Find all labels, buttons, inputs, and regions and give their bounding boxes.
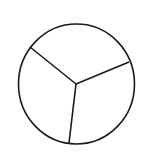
radius-line-upper-left [30, 47, 76, 84]
three-sector-circle-diagram [0, 0, 157, 162]
radius-line-right [76, 62, 129, 84]
radius-line-bottom [69, 84, 76, 143]
